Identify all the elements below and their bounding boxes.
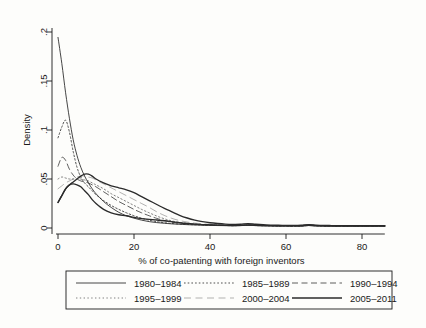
legend-box <box>66 271 392 309</box>
axis-labels: 0204060800.05.1.15.2Density% of co-paten… <box>21 28 368 266</box>
legend-label: 2000–2004 <box>242 293 290 304</box>
y-tick-label: .1 <box>38 126 49 134</box>
density-curve <box>58 174 385 226</box>
x-tick-label: 60 <box>281 241 292 252</box>
x-axis-title: % of co-patenting with foreign inventors <box>138 255 305 266</box>
legend: 1980–19841985–19891990–19941995–19992000… <box>66 271 398 309</box>
density-curve <box>58 157 385 226</box>
x-tick-label: 40 <box>205 241 216 252</box>
y-tick-label: .2 <box>38 28 49 36</box>
y-axis-title: Density <box>21 114 32 146</box>
legend-label: 2005–2011 <box>350 293 397 304</box>
density-curve <box>58 120 385 226</box>
density-curve <box>58 176 385 226</box>
density-curve <box>58 37 385 226</box>
legend-label: 1980–1984 <box>134 278 182 289</box>
density-curves <box>58 37 385 226</box>
x-tick-label: 0 <box>55 241 60 252</box>
y-tick-label: .05 <box>38 172 49 185</box>
legend-label: 1995–1999 <box>134 293 182 304</box>
x-tick-label: 20 <box>129 241 140 252</box>
chart-canvas: 0204060800.05.1.15.2Density% of co-paten… <box>0 0 426 328</box>
x-tick-label: 80 <box>357 241 368 252</box>
axes <box>47 28 385 239</box>
y-tick-label: 0 <box>38 225 49 230</box>
legend-label: 1985–1989 <box>242 278 290 289</box>
y-tick-label: .15 <box>38 74 49 87</box>
legend-label: 1990–1994 <box>350 278 398 289</box>
density-plot-figure: 0204060800.05.1.15.2Density% of co-paten… <box>0 0 426 328</box>
